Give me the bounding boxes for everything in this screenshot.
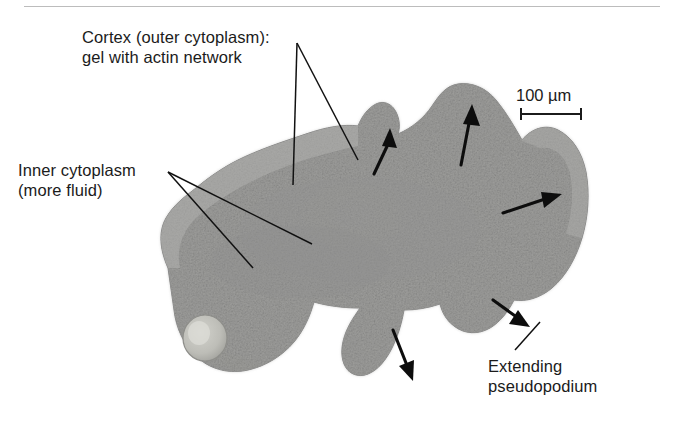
- label-cortex: Cortex (outer cytoplasm): gel with actin…: [82, 27, 270, 67]
- vacuole-highlight: [188, 321, 210, 345]
- scalebar-graphic: [515, 106, 591, 122]
- figure-panel: Cortex (outer cytoplasm): gel with actin…: [0, 0, 680, 425]
- arrow-bottom-retracting: [393, 330, 414, 381]
- specimen-body-group: [150, 80, 600, 390]
- label-extending-pseudopodium: Extending pseudopodium: [488, 356, 597, 396]
- scalebar-label: 100 µm: [516, 86, 571, 105]
- label-inner-cytoplasm: Inner cytoplasm (more fluid): [18, 160, 136, 200]
